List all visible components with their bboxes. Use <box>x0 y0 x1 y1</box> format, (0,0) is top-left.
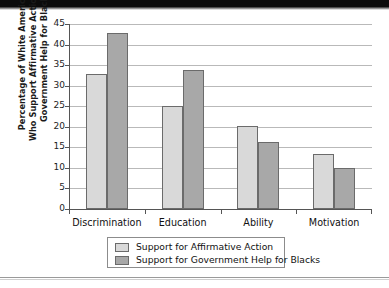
x-axis-category-label: Education <box>145 217 221 228</box>
page-edge-band <box>0 0 389 7</box>
legend-label-government-help: Support for Government Help for Blacks <box>136 255 320 265</box>
x-tick-mark <box>221 209 222 214</box>
x-tick-mark <box>145 209 146 214</box>
y-axis-line <box>69 24 70 210</box>
y-tick-mark <box>65 65 70 66</box>
bar <box>162 106 183 209</box>
y-axis-title-line-2: Who Support Affirmative Action and <box>28 0 39 152</box>
legend-swatch-icon-dark <box>115 256 129 265</box>
legend-swatch-icon-light <box>115 243 129 252</box>
y-tick-mark <box>65 24 70 25</box>
page-edge-fade <box>0 7 389 10</box>
y-tick-label: 40 <box>41 40 65 49</box>
y-tick-mark <box>65 106 70 107</box>
x-tick-mark <box>69 209 70 214</box>
y-tick-mark <box>65 127 70 128</box>
x-axis-category-label: Motivation <box>296 217 372 228</box>
x-tick-mark <box>371 209 372 214</box>
y-tick-label: 30 <box>41 81 65 90</box>
y-tick-label: 0 <box>41 204 65 213</box>
y-axis-title-line-1: Percentage of White Americans <box>17 0 28 152</box>
y-tick-mark <box>65 86 70 87</box>
x-axis-category-label: Discrimination <box>69 217 145 228</box>
x-tick-mark <box>296 209 297 214</box>
plot-area: 051015202530354045DiscriminationEducatio… <box>69 24 372 209</box>
y-tick-label: 15 <box>41 142 65 151</box>
bar <box>258 142 279 209</box>
bar <box>313 154 334 209</box>
page-bottom-rule-shadow <box>0 279 389 280</box>
bar <box>237 126 258 209</box>
y-tick-mark <box>65 188 70 189</box>
y-tick-mark <box>65 168 70 169</box>
bar <box>183 70 204 209</box>
y-tick-label: 25 <box>41 101 65 110</box>
chart-legend: Support for Affirmative Action Support f… <box>107 237 285 268</box>
bar <box>86 74 107 209</box>
y-tick-label: 20 <box>41 122 65 131</box>
y-tick-mark <box>65 45 70 46</box>
y-tick-mark <box>65 147 70 148</box>
legend-label-affirmative-action: Support for Affirmative Action <box>136 242 273 252</box>
legend-item-affirmative-action: Support for Affirmative Action <box>115 241 273 253</box>
bar <box>107 33 128 209</box>
y-tick-label: 10 <box>41 163 65 172</box>
y-tick-label: 5 <box>41 183 65 192</box>
bar <box>334 168 355 209</box>
y-tick-label: 45 <box>41 19 65 28</box>
bar-chart-figure: Percentage of White Americans Who Suppor… <box>0 0 389 288</box>
page-bottom-rule <box>0 277 389 278</box>
legend-item-government-help: Support for Government Help for Blacks <box>115 254 320 266</box>
x-axis-category-label: Ability <box>221 217 297 228</box>
y-tick-label: 35 <box>41 60 65 69</box>
gridline <box>69 24 372 25</box>
